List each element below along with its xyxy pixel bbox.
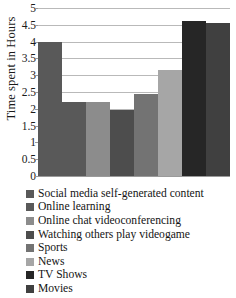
bar [38, 42, 62, 176]
bar-chart: Time spent in Hours 54.543.532.521.510.5… [0, 0, 236, 298]
y-tick-label: 2.5 [14, 87, 36, 97]
legend-color-swatch-icon [26, 217, 34, 225]
bar [182, 21, 206, 176]
y-axis-tick-labels: 54.543.532.521.510.50 [14, 8, 36, 176]
legend-item-label: Movies [38, 283, 73, 295]
legend-color-swatch-icon [26, 190, 34, 198]
y-tick-mark [35, 176, 38, 177]
legend-color-swatch-icon [26, 285, 34, 293]
legend-item[interactable]: News [26, 255, 236, 269]
legend-color-swatch-icon [26, 271, 34, 279]
legend-item[interactable]: TV Shows [26, 269, 236, 283]
y-tick-label: 5 [14, 3, 36, 13]
legend-item-label: TV Shows [38, 269, 87, 281]
legend-item[interactable]: Watching others play videogame [26, 228, 236, 242]
y-tick-label: 4 [14, 37, 36, 47]
bar [110, 110, 134, 176]
legend-item-label: Online learning [38, 201, 110, 213]
legend-color-swatch-icon [26, 203, 34, 211]
legend-item[interactable]: Online learning [26, 201, 236, 215]
y-tick-label: 3.5 [14, 53, 36, 63]
legend-color-swatch-icon [26, 244, 34, 252]
legend-item-label: Social media self-generated content [38, 188, 204, 200]
bar [158, 70, 182, 176]
axis-baseline [38, 176, 230, 177]
legend-item-label: Online chat videoconferencing [38, 215, 181, 227]
y-tick-label: 0.5 [14, 154, 36, 164]
bar-series [38, 8, 230, 176]
legend-item[interactable]: Sports [26, 241, 236, 255]
y-tick-label: 0 [14, 171, 36, 181]
legend-item-label: Sports [38, 242, 68, 254]
plot-area: Time spent in Hours 54.543.532.521.510.5… [0, 0, 236, 186]
legend-item-label: Watching others play videogame [38, 229, 190, 241]
legend-item[interactable]: Social media self-generated content [26, 187, 236, 201]
bar [86, 102, 110, 176]
y-tick-label: 1.5 [14, 121, 36, 131]
bar [134, 94, 158, 176]
y-tick-label: 2 [14, 104, 36, 114]
bar [62, 102, 86, 176]
y-tick-label: 3 [14, 70, 36, 80]
y-tick-label: 4.5 [14, 20, 36, 30]
legend-item[interactable]: Online chat videoconferencing [26, 214, 236, 228]
legend-item-label: News [38, 256, 64, 268]
chart-legend: Social media self-generated contentOnlin… [26, 187, 236, 296]
legend-color-swatch-icon [26, 231, 34, 239]
y-tick-label: 1 [14, 137, 36, 147]
legend-item[interactable]: Movies [26, 282, 236, 296]
legend-color-swatch-icon [26, 258, 34, 266]
bar [206, 23, 230, 176]
